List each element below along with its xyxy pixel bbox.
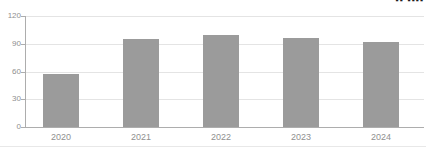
clipped-text-fragment: ▪▪ ▪▪▪▪	[395, 0, 424, 5]
y-tick-label-90: 90	[1, 40, 21, 48]
gridline-120	[25, 16, 424, 17]
y-tick-label-30: 30	[1, 95, 21, 103]
bar-2023	[283, 38, 319, 127]
y-tick-label-0: 0	[1, 123, 21, 131]
bar-chart: ▪▪ ▪▪▪▪ 030609012020202021202220232024	[0, 0, 426, 151]
bar-2021	[123, 39, 159, 127]
y-axis-line	[25, 16, 26, 127]
bar-2020	[43, 74, 79, 127]
y-tick-label-60: 60	[1, 68, 21, 76]
x-tick-label-2021: 2021	[119, 133, 163, 142]
x-axis-line	[25, 127, 424, 128]
y-tick-label-120: 120	[1, 12, 21, 20]
x-tick-label-2024: 2024	[359, 133, 403, 142]
bottom-divider	[0, 146, 426, 147]
bar-2024	[363, 42, 399, 127]
bar-2022	[203, 35, 239, 127]
x-tick-label-2022: 2022	[199, 133, 243, 142]
x-tick-label-2020: 2020	[39, 133, 83, 142]
x-tick-label-2023: 2023	[279, 133, 323, 142]
